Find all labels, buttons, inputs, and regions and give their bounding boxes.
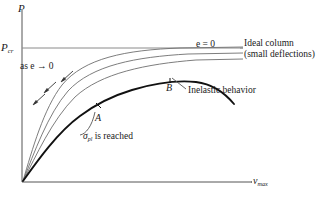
eccentricity-arrow-2	[44, 82, 56, 93]
load-deflection-diagram: P Pcr as e → 0 e = 0 Ideal column (small…	[0, 0, 325, 199]
critical-load-label: Pcr	[1, 41, 13, 54]
eccentric-curve-large-e	[23, 59, 243, 181]
critical-load-label-subscript: cr	[8, 47, 14, 54]
inelastic-behavior-annotation: Inelastic behavior	[188, 85, 256, 96]
sigma-pl-symbol: σ	[83, 131, 88, 141]
eccentric-curve-small-e	[23, 47, 243, 181]
ideal-column-line-2: (small deflections)	[244, 49, 315, 60]
eccentric-curve-medium-e	[23, 53, 243, 181]
eccentricity-arrow-1	[61, 71, 73, 82]
sigma-pl-rest-text: is reached	[92, 131, 133, 141]
critical-load-label-base: P	[1, 41, 8, 53]
point-a-label: A	[95, 112, 101, 124]
eccentric-load-curves	[23, 47, 243, 181]
sigma-pl-subscript: pl	[88, 136, 93, 142]
eccentricity-arrow-3	[33, 94, 45, 105]
e-equals-zero-annotation: e = 0	[196, 39, 215, 50]
ideal-column-line-1: Ideal column	[244, 38, 315, 49]
curve-point-markers	[96, 78, 170, 108]
eccentricity-arrows	[33, 71, 73, 105]
y-axis-label: P	[18, 2, 25, 15]
point-b-label: B	[166, 82, 172, 94]
ideal-column-annotation: Ideal column (small deflections)	[244, 38, 315, 60]
x-axis-label-subscript: max	[257, 180, 267, 187]
sigma-pl-annotation: σpl is reached	[83, 131, 133, 142]
diagram-canvas	[0, 0, 325, 199]
x-axis-label: vmax	[253, 175, 268, 187]
inelastic-leader-line	[172, 78, 186, 89]
as-e-to-zero-annotation: as e → 0	[20, 61, 54, 72]
axis-group	[22, 10, 252, 182]
